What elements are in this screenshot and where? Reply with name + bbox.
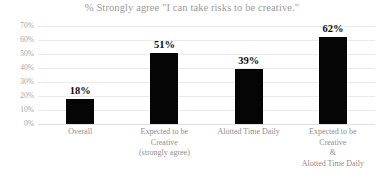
y-axis-tick-label: 70% bbox=[0, 22, 34, 30]
y-axis: 70%60%50%40%30%20%10%0% bbox=[0, 26, 36, 124]
y-axis-tick-label: 50% bbox=[0, 50, 34, 58]
y-axis-tick-label: 60% bbox=[0, 36, 34, 44]
bar-value-label: 51% bbox=[148, 39, 182, 51]
x-axis-category-labels: OverallExpected to beCreative(strongly a… bbox=[38, 127, 375, 185]
y-axis-tick-label: 20% bbox=[0, 92, 34, 100]
category-label-line: Alotted Time Daily bbox=[207, 127, 291, 138]
category-label-line: Expected to be bbox=[291, 127, 375, 138]
y-axis-tick-label: 40% bbox=[0, 64, 34, 72]
bar-group: 18% bbox=[66, 26, 94, 124]
category-label: Overall bbox=[38, 127, 122, 138]
y-axis-tick-label: 30% bbox=[0, 78, 34, 86]
y-axis-tick-label: 0% bbox=[0, 120, 34, 128]
bar-value-label: 18% bbox=[63, 85, 97, 97]
bar-value-label: 62% bbox=[316, 23, 350, 35]
bar-chart: % Strongly agree "I can take risks to be… bbox=[0, 0, 384, 185]
category-label-line: Alotted Time Daily bbox=[291, 159, 375, 170]
bar bbox=[150, 53, 178, 124]
category-label-line: Creative bbox=[122, 138, 206, 149]
category-label-line: Expected to be bbox=[122, 127, 206, 138]
category-label: Alotted Time Daily bbox=[207, 127, 291, 138]
bar-group: 39% bbox=[235, 26, 263, 124]
bar-group: 62% bbox=[319, 26, 347, 124]
category-label: Expected to beCreative&Alotted Time Dail… bbox=[291, 127, 375, 169]
y-axis-tick-label: 10% bbox=[0, 106, 34, 114]
chart-title: % Strongly agree "I can take risks to be… bbox=[0, 1, 384, 14]
category-label-line: (strongly agree) bbox=[122, 148, 206, 159]
category-label-line: Creative bbox=[291, 138, 375, 149]
bar-group: 51% bbox=[150, 26, 178, 124]
bar-value-label: 39% bbox=[232, 55, 266, 67]
bar bbox=[319, 37, 347, 124]
category-label: Expected to beCreative(strongly agree) bbox=[122, 127, 206, 159]
category-label-line: Overall bbox=[38, 127, 122, 138]
gridline bbox=[38, 124, 375, 125]
bar bbox=[235, 69, 263, 124]
category-label-line: & bbox=[291, 148, 375, 159]
plot-area: 18%51%39%62% bbox=[38, 26, 375, 124]
bar bbox=[66, 99, 94, 124]
